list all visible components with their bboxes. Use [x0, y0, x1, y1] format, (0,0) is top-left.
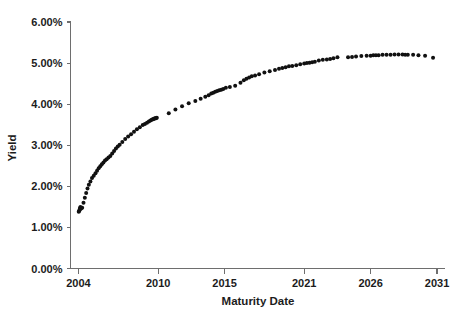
y-axis-ticks: 0.00%1.00%2.00%3.00%4.00%5.00%6.00% [31, 16, 70, 275]
x-tick-label: 2015 [212, 277, 236, 289]
data-point [173, 108, 177, 112]
x-axis-ticks: 200420102015202120262031 [66, 269, 449, 289]
data-point [431, 56, 435, 60]
data-point [313, 60, 317, 64]
data-point [193, 99, 197, 103]
data-point [284, 65, 288, 69]
x-tick-label: 2021 [292, 277, 316, 289]
data-point [335, 55, 339, 59]
data-point [180, 104, 184, 108]
yield-curve-chart: 0.00%1.00%2.00%3.00%4.00%5.00%6.00% 2004… [0, 0, 455, 319]
data-point [393, 52, 397, 56]
data-point [359, 54, 363, 58]
x-tick-label: 2031 [425, 277, 449, 289]
data-point [389, 53, 393, 57]
data-point [80, 206, 84, 210]
y-tick-label: 4.00% [31, 98, 62, 110]
data-point [155, 116, 159, 120]
data-point [365, 54, 369, 58]
data-point [167, 111, 171, 115]
data-point [298, 62, 302, 66]
data-point [84, 191, 88, 195]
data-point [328, 57, 332, 61]
data-point [416, 53, 420, 57]
y-tick-label: 2.00% [31, 180, 62, 192]
data-point [120, 140, 124, 144]
data-point [331, 56, 335, 60]
y-axis-title: Yield [6, 134, 18, 161]
data-point [377, 53, 381, 57]
x-tick-label: 2010 [146, 277, 170, 289]
data-point [262, 71, 266, 75]
data-point [86, 186, 90, 190]
data-point [354, 55, 358, 59]
y-tick-label: 0.00% [31, 263, 62, 275]
data-point [397, 52, 401, 56]
chart-canvas: 0.00%1.00%2.00%3.00%4.00%5.00%6.00% 2004… [0, 0, 455, 319]
data-point [82, 201, 86, 205]
scatter-points [77, 52, 435, 213]
data-point [224, 86, 228, 90]
y-tick-label: 5.00% [31, 57, 62, 69]
y-tick-label: 1.00% [31, 221, 62, 233]
data-point [250, 74, 254, 78]
data-point [294, 63, 298, 67]
data-point [273, 68, 277, 72]
data-point [233, 84, 237, 88]
data-point [381, 53, 385, 57]
data-point [280, 66, 284, 70]
data-point [228, 85, 232, 89]
data-point [321, 58, 325, 62]
y-tick-label: 3.00% [31, 139, 62, 151]
x-tick-label: 2026 [358, 277, 382, 289]
x-tick-label: 2004 [66, 277, 91, 289]
data-point [406, 53, 410, 57]
data-point [277, 67, 281, 71]
data-point [290, 64, 294, 68]
data-point [83, 196, 87, 200]
data-point [385, 53, 389, 57]
y-tick-label: 6.00% [31, 16, 62, 28]
data-point [346, 55, 350, 59]
data-point [268, 69, 272, 73]
data-point [411, 53, 415, 57]
data-point [187, 101, 191, 105]
data-point [317, 59, 321, 63]
data-point [253, 73, 257, 77]
data-point [238, 81, 242, 85]
data-point [423, 54, 427, 58]
data-point [257, 72, 261, 76]
data-point [350, 55, 354, 59]
x-axis-title: Maturity Date [222, 295, 295, 307]
data-point [199, 97, 203, 101]
